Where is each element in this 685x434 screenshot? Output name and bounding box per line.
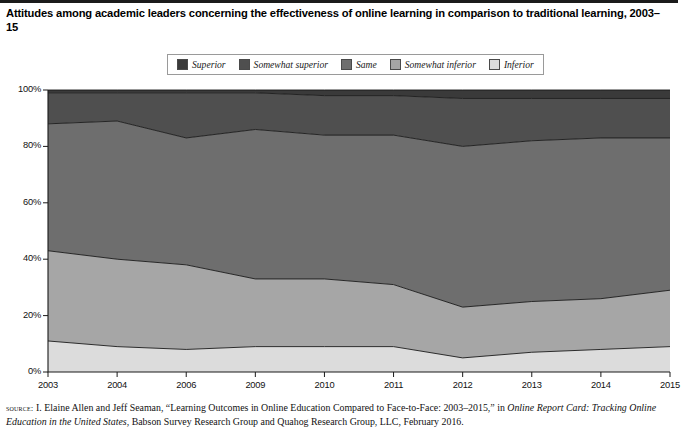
x-axis-tick-label: 2011 xyxy=(372,380,416,390)
y-axis-tick-label: 100% xyxy=(7,84,41,94)
x-axis-tick-label: 2014 xyxy=(579,380,623,390)
x-axis-tick-label: 2004 xyxy=(95,380,139,390)
source-label: source: xyxy=(6,403,34,413)
x-axis-tick-label: 2006 xyxy=(164,380,208,390)
source-text-a: I. Elaine Allen and Jeff Seaman, “Learni… xyxy=(34,402,508,413)
x-axis-tick-label: 2012 xyxy=(441,380,485,390)
x-axis-tick-label: 2010 xyxy=(302,380,346,390)
y-axis-tick-label: 0% xyxy=(7,366,41,376)
x-axis-tick-label: 2015 xyxy=(648,380,685,390)
y-axis-tick-label: 40% xyxy=(7,253,41,263)
x-axis-tick-label: 2003 xyxy=(26,380,70,390)
x-axis-tick-label: 2013 xyxy=(510,380,554,390)
source-title-italic-1: Online Report Card: xyxy=(507,402,589,413)
y-axis-tick-label: 60% xyxy=(7,197,41,207)
source-note: source: I. Elaine Allen and Jeff Seaman,… xyxy=(6,401,674,429)
y-axis-tick-label: 20% xyxy=(7,310,41,320)
source-text-b: , Babson Survey Research Group and Quaho… xyxy=(127,416,464,427)
x-axis-tick-label: 2009 xyxy=(233,380,277,390)
y-axis-tick-label: 80% xyxy=(7,140,41,150)
